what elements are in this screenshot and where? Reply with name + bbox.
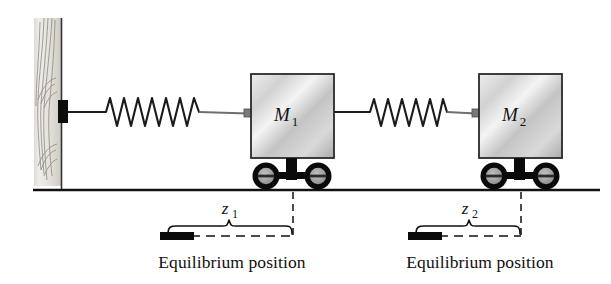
displacement-z2: z 2 Equilibrium position	[406, 192, 553, 272]
mass-block-2[interactable]: M 2	[479, 74, 562, 158]
spring-2-coils	[370, 99, 447, 126]
displacement-z2-label: z	[461, 199, 469, 218]
displacement-z1: z 1 Equilibrium position	[158, 192, 305, 272]
wheel-assembly-1-left-wheel	[253, 163, 280, 190]
spring-1-coils	[106, 98, 199, 126]
fixed-wall	[34, 18, 62, 190]
wheel-assembly-1	[253, 158, 332, 190]
displacement-z2-marker	[408, 232, 442, 240]
displacement-z1-subscript: 1	[232, 207, 238, 221]
mass-block-2-subscript: 2	[520, 114, 527, 129]
displacement-z1-marker	[160, 232, 194, 240]
wheel-assembly-1-right-wheel	[305, 163, 332, 190]
displacement-z1-label: z	[221, 199, 229, 218]
diagram-canvas: M 1 M 2	[0, 0, 611, 284]
spring-1-lead-right	[199, 112, 248, 114]
mass-block-2-label: M	[501, 104, 519, 125]
displacement-z1-caption: Equilibrium position	[158, 252, 305, 272]
spring-mass-diagram: M 1 M 2	[0, 0, 611, 284]
wheel-assembly-2-right-wheel	[533, 163, 560, 190]
mass-block-1-label: M	[273, 104, 291, 125]
spring-1	[68, 98, 252, 126]
wall-anchor-block	[58, 100, 68, 123]
wheel-assembly-2-left-wheel	[481, 163, 508, 190]
displacement-z2-caption: Equilibrium position	[406, 252, 553, 272]
mass-block-1[interactable]: M 1	[251, 74, 334, 158]
displacement-z1-brace	[168, 220, 292, 234]
displacement-z2-brace	[416, 220, 520, 234]
wheel-assembly-2	[481, 158, 560, 190]
spring-2	[334, 99, 480, 126]
mass-block-1-subscript: 1	[292, 114, 299, 129]
displacement-z2-subscript: 2	[472, 207, 478, 221]
